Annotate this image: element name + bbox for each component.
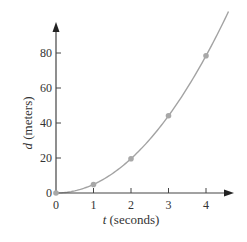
y-axis-arrow-icon — [53, 22, 60, 32]
distance-time-chart: 020406080 01234 t (seconds) d (meters) — [0, 0, 247, 242]
data-points — [53, 53, 209, 196]
x-tick-label: 3 — [166, 198, 172, 212]
y-tick-label: 80 — [40, 46, 52, 60]
y-tick-label: 0 — [46, 186, 52, 200]
x-axis-title: t (seconds) — [103, 212, 160, 227]
y-axis — [53, 22, 60, 193]
y-axis-title: d (meters) — [20, 96, 35, 149]
x-tick-label: 4 — [203, 198, 209, 212]
y-tick-label: 40 — [40, 116, 52, 130]
fitted-curve — [56, 12, 229, 193]
y-ticks: 020406080 — [40, 46, 61, 200]
data-point — [128, 156, 134, 162]
x-axis — [56, 190, 234, 197]
x-tick-label: 0 — [53, 198, 59, 212]
data-point — [166, 113, 172, 119]
y-tick-label: 60 — [40, 81, 52, 95]
x-tick-label: 1 — [91, 198, 97, 212]
data-point — [53, 190, 59, 196]
x-ticks: 01234 — [53, 188, 209, 212]
data-point — [91, 182, 97, 188]
y-tick-label: 20 — [40, 151, 52, 165]
x-axis-arrow-icon — [224, 190, 234, 197]
x-tick-label: 2 — [128, 198, 134, 212]
data-point — [203, 53, 209, 59]
